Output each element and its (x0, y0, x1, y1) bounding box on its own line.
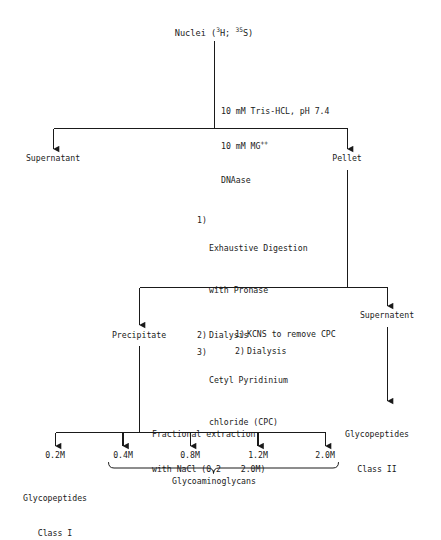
cpc-step-2: 2) Dialysis (235, 346, 336, 358)
glycopeptides-class-i-line-1: Glycopeptides (23, 493, 87, 505)
digestion-step-1-line-2: with Pronase (209, 283, 308, 297)
label-glycoaminoglycans: Glycoaminoglycans (172, 476, 256, 488)
label-supernatant-1: Supernatant (26, 153, 80, 165)
glycopeptides-class-ii-line-1: Glycopeptides (345, 429, 409, 441)
fraction-label-4: 2.0M (315, 450, 335, 462)
label-precipitate: Precipitate (112, 330, 166, 342)
label-supernatent-2: Supernatent (360, 310, 414, 322)
glycopeptides-class-ii-line-2: Class II (345, 464, 409, 476)
fractional-extraction-line-1: Fractional extraction (152, 429, 265, 441)
treatment-cpc-removal-steps: 1) KCNS to remove CPC 2) Dialysis (235, 329, 336, 357)
lysis-mg-charge: ++ (260, 139, 267, 146)
digestion-step-1-number: 1) (197, 213, 209, 325)
isotope-s-label: S) (243, 28, 253, 38)
lysis-line-2: 10 mM MG++ (221, 141, 329, 153)
isotope-h-label: H; (220, 28, 236, 38)
fraction-label-3: 1.2M (248, 450, 268, 462)
digestion-step-3-line-1: Cetyl Pyridinium (209, 373, 288, 387)
label-glycopeptides-class-ii: Glycopeptides Class II (345, 406, 409, 498)
digestion-step-1-text: Exhaustive Digestion with Pronase (209, 213, 308, 325)
digestion-step-1-line-1: Exhaustive Digestion (209, 241, 308, 255)
glycopeptides-class-i-line-2: Class I (23, 528, 87, 540)
nuclei-prefix: Nuclei ( (175, 28, 216, 38)
cpc-step-1: 1) KCNS to remove CPC (235, 329, 336, 341)
cpc-step-1-number: 1) (235, 329, 247, 341)
cpc-step-1-text: KCNS to remove CPC (247, 329, 336, 341)
fractional-extraction-line-2: with NaCl (0.2 2.0M) (152, 464, 265, 476)
fraction-label-0: 0.2M (45, 450, 65, 462)
label-glycopeptides-class-i: Glycopeptides Class I (23, 470, 87, 540)
label-pellet: Pellet (332, 153, 362, 165)
isotope-s-superscript: 35 (235, 26, 242, 33)
cpc-step-2-text: Dialysis (247, 346, 286, 358)
digestion-step-1: 1) Exhaustive Digestion with Pronase (197, 213, 308, 325)
lysis-line-3: DNAase (221, 175, 329, 187)
cpc-step-2-number: 2) (235, 346, 247, 358)
node-nuclei: Nuclei (3H; 35S) (175, 28, 253, 40)
fraction-label-2: 0.8M (180, 450, 200, 462)
treatment-lysis: 10 mM Tris-HCL, pH 7.4 10 mM MG++ DNAase (221, 83, 329, 210)
fraction-label-1: 0.4M (113, 450, 133, 462)
digestion-step-2-number: 2) (197, 328, 209, 342)
lysis-line-1: 10 mM Tris-HCL, pH 7.4 (221, 106, 329, 118)
lysis-mg-text: 10 mM MG (221, 141, 260, 151)
